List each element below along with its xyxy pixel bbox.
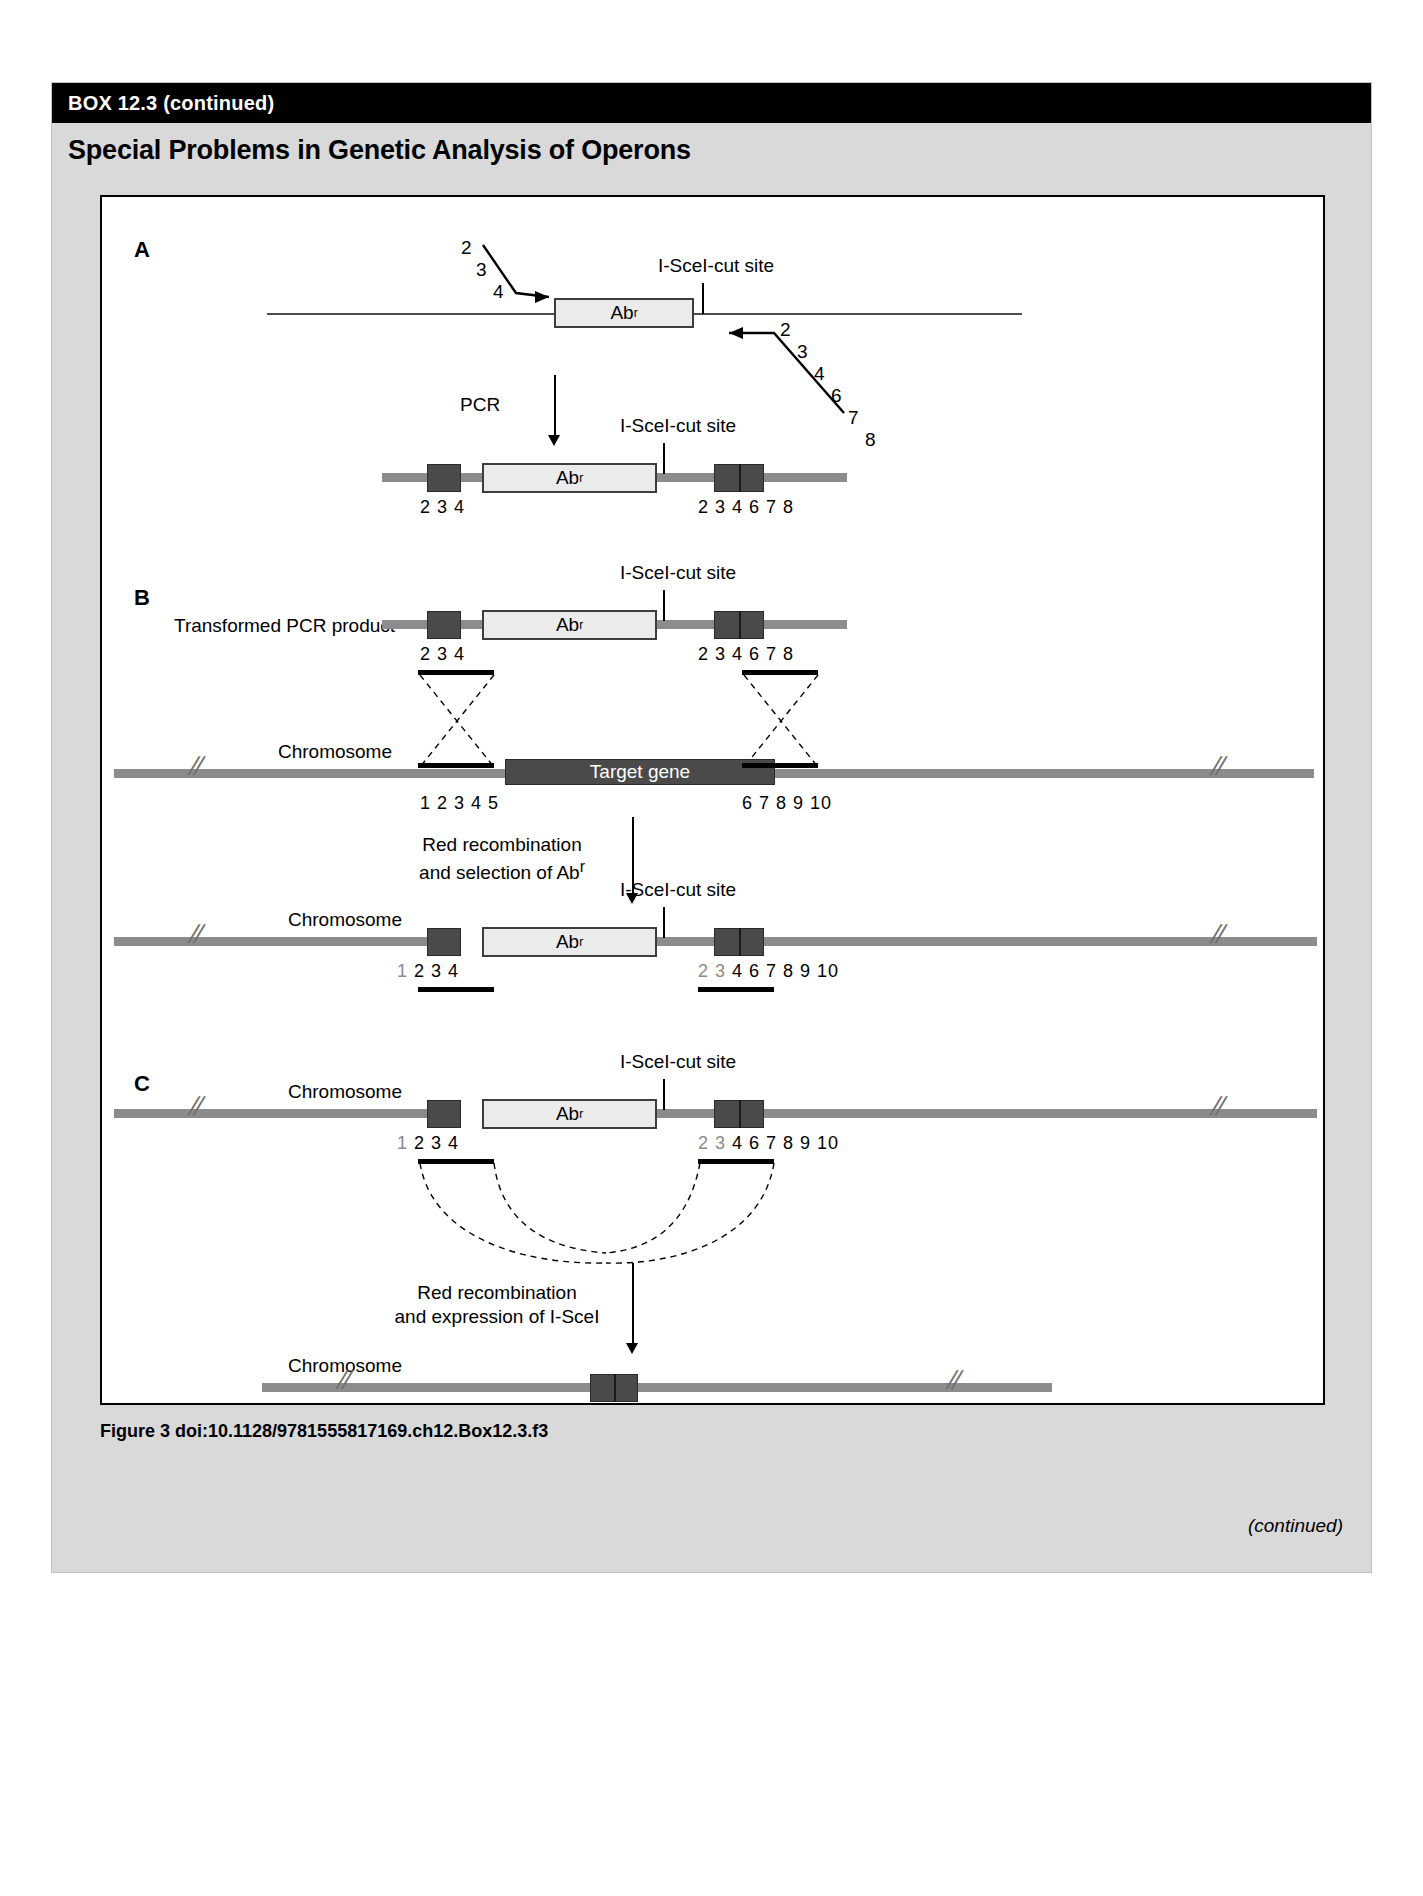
primer-right-digit-8: 8 [865,429,877,451]
panelc-block-left [427,1100,461,1128]
primer-left-a-graphic [102,197,1323,1403]
integrated-num-left-black: 2 3 4 [414,961,459,981]
isce-step-arrow-head [626,1343,638,1354]
box-number-label: BOX 12.3 (continued) [68,92,274,115]
red-recomb-sup: r [580,858,585,875]
primer-right-digit-3: 3 [797,341,809,363]
abr-label: Ab [556,1103,579,1125]
red-recombination-abr-label: Red recombination and selection of Abr [392,833,612,885]
pcr-step-label: PCR [460,393,500,417]
panelc-numbers-right: 2 3 4 6 7 8 9 10 [698,1133,839,1154]
panelc-backbone-far-left [114,1109,434,1118]
template-dna-right [692,313,1022,315]
abr-label: Ab [556,467,579,489]
homology-bar-panelc-left [418,1159,494,1164]
red-recomb-isce-line2: and expression of I-SceI [395,1306,600,1327]
panel-letter-b: B [134,585,150,611]
abr-cassette-panelc: Abr [482,1099,657,1129]
pcr-arrow-line [554,375,556,437]
red-recombination-isce-label: Red recombination and expression of I-Sc… [372,1281,622,1329]
primer-left-digit-2: 2 [461,237,473,259]
panelc-numbers-left: 1 2 3 4 [397,1133,459,1154]
transformed-pcr-product-label: Transformed PCR product [174,615,364,637]
pcr-product-block-left [427,464,461,492]
isce-step-arrow-line [632,1263,634,1345]
abr-cassette-a: Abr [554,298,694,328]
pcr-arrow-head [548,435,560,446]
isce-tick-pcr-product [663,443,665,474]
red-recomb-line1: Red recombination [422,834,581,855]
chromosome-label-c-top: Chromosome [282,1081,402,1103]
final-chromosome-backbone [262,1383,1052,1392]
red-recomb-isce-line1: Red recombination [417,1282,576,1303]
isce-tick-transformed [663,590,665,621]
continued-note: (continued) [1248,1515,1343,1537]
box-title: Special Problems in Genetic Analysis of … [68,135,691,166]
homology-bar-product-right [742,670,818,675]
transformed-numbers-right: 2 3 4 6 7 8 [698,644,794,665]
chromosome-label-b-bottom: Chromosome [282,909,402,931]
primer-left-digit-3: 3 [476,259,488,281]
abr-superscript: r [579,935,583,949]
transformed-block-right-divider [739,611,741,639]
homology-bar-integrated-left [418,987,494,992]
pcr-product-numbers-right: 2 3 4 6 7 8 [698,497,794,518]
transformed-numbers-left: 2 3 4 [420,644,465,665]
primer-right-digit-2: 2 [780,319,792,341]
box-container: BOX 12.3 (continued) Special Problems in… [51,82,1372,1573]
isce-label-pcr-product: I-SceI-cut site [620,415,736,437]
primer-right-digit-6: 6 [831,385,843,407]
figure-caption: Figure 3 doi:10.1128/9781555817169.ch12.… [100,1421,548,1442]
transformed-block-left [427,611,461,639]
intramolecular-dashes-c [102,197,1323,1403]
integrated-backbone-far-left [114,937,434,946]
isce-label-panelc: I-SceI-cut site [620,1051,736,1073]
chromosome-label-b-top: Chromosome [272,741,392,763]
panelc-num-left-black: 2 3 4 [414,1133,459,1153]
abr-superscript: r [579,618,583,632]
crossover-dashes-b [102,197,1323,1403]
primer-left-digit-4: 4 [493,281,505,303]
panelc-block-right-divider [739,1100,741,1128]
panelc-num-right-black: 4 6 7 8 9 10 [732,1133,839,1153]
panel-letter-c: C [134,1071,150,1097]
chromosome-numbers-right: 6 7 8 9 10 [742,793,832,814]
isce-tick-integrated [663,907,665,938]
abr-cassette-integrated: Abr [482,927,657,957]
abr-label: Ab [556,931,579,953]
pcr-product-numbers-left: 2 3 4 [420,497,465,518]
integrated-block-left [427,928,461,956]
chromosome-numbers-left: 1 2 3 4 5 [420,793,499,814]
box-header-bar: BOX 12.3 (continued) [52,83,1371,123]
red-recomb-line2: and selection of Ab [419,862,580,883]
integrated-block-right-divider [739,928,741,956]
isce-tick-a-top [702,283,704,314]
homology-bar-panelc-right [698,1159,774,1164]
abr-superscript: r [579,1107,583,1121]
pcr-product-block-right-divider [739,464,741,492]
template-dna-left [267,313,557,315]
abr-cassette-pcr-product: Abr [482,463,657,493]
abr-label: Ab [610,302,633,324]
primer-right-digit-4: 4 [814,363,826,385]
homology-bar-chromosome-right [742,763,818,768]
abr-cassette-transformed: Abr [482,610,657,640]
isce-label-a-top: I-SceI-cut site [658,255,774,277]
figure-panel: A Abr I-SceI-cut site 2 3 4 2 3 4 6 7 8 … [100,195,1325,1405]
abr-label: Ab [556,614,579,636]
homology-bar-product-left [418,670,494,675]
isce-tick-panelc [663,1079,665,1110]
abr-superscript: r [634,306,638,320]
integrated-numbers-left: 1 2 3 4 [397,961,459,982]
homology-bar-chromosome-left [418,763,494,768]
primer-right-digit-7: 7 [848,407,860,429]
panel-letter-a: A [134,237,150,263]
integrated-num-right-grey: 2 3 [698,961,726,981]
isce-label-transformed: I-SceI-cut site [620,562,736,584]
homology-bar-integrated-right [698,987,774,992]
target-gene-box: Target gene [505,759,775,785]
abr-superscript: r [579,471,583,485]
final-scar-divider [614,1374,616,1402]
integrated-num-right-black: 4 6 7 8 9 10 [732,961,839,981]
integrated-numbers-right: 2 3 4 6 7 8 9 10 [698,961,839,982]
